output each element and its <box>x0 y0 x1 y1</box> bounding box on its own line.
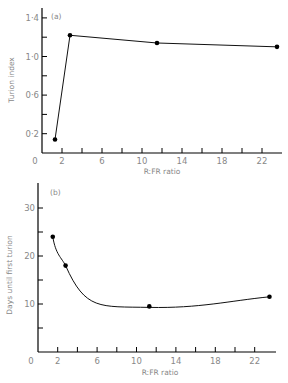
figure: 0·20·61·01·4 02610141822 (a) Turion inde… <box>0 0 288 383</box>
chart-b: 102030 02610141822 (b) Days until first … <box>5 183 276 377</box>
x-tick-label: 22 <box>249 356 260 366</box>
y-tick-label: 30 <box>24 203 35 213</box>
x-axis-label-b: R:FR ratio <box>142 368 179 377</box>
data-point <box>53 137 58 142</box>
data-point <box>275 45 280 50</box>
data-point <box>63 263 68 268</box>
x-tick-label: 10 <box>137 156 148 166</box>
data-points-b <box>50 235 271 309</box>
y-tick-label: 0·2 <box>25 129 39 139</box>
y-tick-label: 10 <box>24 299 35 309</box>
x-axis-label-a: R:FR ratio <box>144 167 181 176</box>
y-tick-label: 1·0 <box>25 52 39 62</box>
x-tick-label: 10 <box>131 356 142 366</box>
x-tick-label: 18 <box>210 356 221 366</box>
x-tick-label: 0 <box>28 356 33 366</box>
x-tick-label: 18 <box>217 156 228 166</box>
x-ticks-b: 02610141822 <box>28 347 260 366</box>
y-ticks-a: 0·20·61·01·4 <box>25 13 47 139</box>
data-point <box>147 304 152 309</box>
y-ticks-b: 102030 <box>24 203 43 328</box>
y-axis-label-a: Turion index <box>7 57 16 104</box>
x-ticks-a: 02610141822 <box>32 148 267 166</box>
y-tick-label: 1·4 <box>25 13 39 23</box>
data-point <box>267 295 272 300</box>
series-line-a <box>55 35 277 139</box>
x-tick-label: 2 <box>59 156 64 166</box>
panel-label-b: (b) <box>50 188 61 197</box>
data-point <box>68 33 73 38</box>
panel-label-a: (a) <box>51 12 62 21</box>
data-point <box>50 235 55 240</box>
x-tick-label: 14 <box>170 356 181 366</box>
x-tick-label: 22 <box>257 156 268 166</box>
x-tick-label: 6 <box>99 156 104 166</box>
data-point <box>155 41 160 46</box>
series-curve-b <box>53 237 270 308</box>
y-tick-label: 0·6 <box>25 90 39 100</box>
x-tick-label: 2 <box>55 356 60 366</box>
x-tick-label: 0 <box>32 156 37 166</box>
chart-a: 0·20·61·01·4 02610141822 (a) Turion inde… <box>7 8 282 176</box>
y-tick-label: 20 <box>24 251 35 261</box>
y-axis-label-b: Days until first turion <box>5 235 14 315</box>
x-tick-label: 14 <box>177 156 188 166</box>
data-points-a <box>53 33 280 142</box>
x-tick-label: 6 <box>94 356 99 366</box>
